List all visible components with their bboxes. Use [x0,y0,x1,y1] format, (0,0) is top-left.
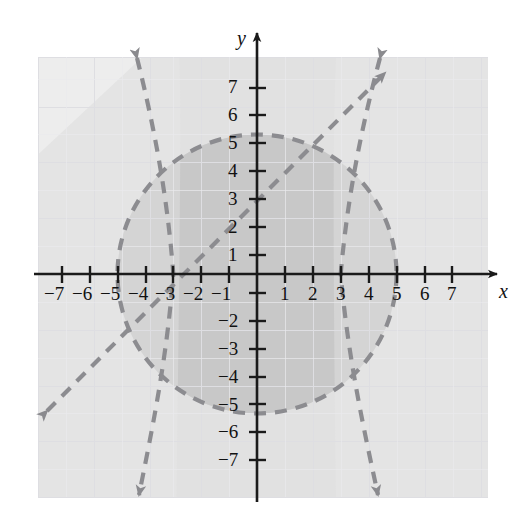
y-tick-label-5: 5 [228,132,238,154]
y-tick-label--4: −4 [218,366,238,388]
x-tick-label--1: −1 [211,283,231,305]
shaded-region-group [0,0,530,515]
x-tick-label--3: −3 [155,283,175,305]
y-tick-label-2: 2 [228,216,238,238]
x-tick-label-5: 5 [392,283,402,305]
y-tick-label-6: 6 [228,104,238,126]
y-tick-label-1: 1 [228,244,238,266]
x-tick-label--5: −5 [100,283,120,305]
y-tick-label--6: −6 [218,421,238,443]
graph-figure: −7 −6 −5 −4 −3 −2 −1 1 2 3 4 5 6 7 7 6 5… [0,0,530,515]
y-axis-label: y [237,27,246,50]
x-tick-label--4: −4 [128,283,148,305]
x-tick-label-2: 2 [308,283,318,305]
x-tick-label-7: 7 [447,283,457,305]
x-tick-label-6: 6 [420,283,430,305]
y-tick-label-4: 4 [228,160,238,182]
y-tick-label-3: 3 [228,188,238,210]
x-tick-label-1: 1 [280,283,290,305]
x-axis-label: x [499,280,508,303]
x-tick-label-4: 4 [364,283,374,305]
x-tick-label-3: 3 [336,283,346,305]
y-tick-label--3: −3 [218,338,238,360]
y-tick-label--7: −7 [218,449,238,471]
x-tick-label--2: −2 [183,283,203,305]
y-tick-label-7: 7 [228,76,238,98]
x-tick-label--7: −7 [44,283,64,305]
x-tick-label--6: −6 [72,283,92,305]
y-tick-label--2: −2 [218,310,238,332]
coordinate-plane-svg [0,0,530,515]
y-tick-label--5: −5 [218,394,238,416]
